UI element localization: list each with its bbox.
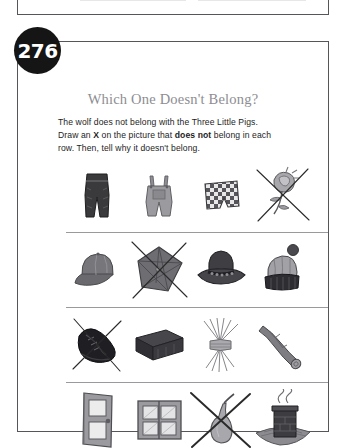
picture-cell-chimney[interactable] — [252, 389, 314, 448]
row-divider — [66, 307, 328, 308]
picture-cell-baseball-cap[interactable] — [66, 239, 128, 301]
brick-icon — [128, 314, 190, 376]
picture-cell-brick[interactable] — [128, 314, 190, 376]
picture-cell-cowboy-hat[interactable] — [190, 239, 252, 301]
picture-cell-wooden-log[interactable] — [252, 314, 314, 376]
straw-bundle-icon — [190, 314, 252, 376]
winter-beanie-icon — [252, 239, 314, 301]
wooden-log-icon — [252, 314, 314, 376]
page-title: Which One Doesn't Belong? — [18, 91, 328, 108]
picture-cell-straw-bundle[interactable] — [190, 314, 252, 376]
pants-icon — [66, 164, 128, 226]
page-number-badge: 276 — [14, 27, 61, 74]
instructions-text: The wolf does not belong with the Three … — [58, 116, 306, 156]
umbrella-icon — [128, 239, 190, 301]
instructions-line-2-middle: on the picture that — [99, 130, 175, 140]
cowboy-hat-icon — [190, 239, 252, 301]
picture-cell-door[interactable] — [66, 389, 128, 448]
picture-cell-pants[interactable] — [66, 164, 128, 226]
picture-cell-overalls[interactable] — [128, 164, 190, 226]
window-icon — [128, 389, 190, 448]
instructions-does-not: does not — [175, 130, 212, 140]
instructions-line-3: row. Then, tell why it doesn't belong. — [58, 143, 200, 153]
picture-cell-shoe[interactable] — [66, 314, 128, 376]
row-divider — [66, 232, 328, 233]
door-icon — [66, 389, 128, 448]
picture-row — [18, 312, 328, 387]
rose-icon — [252, 164, 314, 226]
chimney-icon — [252, 389, 314, 448]
instructions-line-2-suffix: belong in each — [211, 130, 271, 140]
picture-cell-rose[interactable] — [252, 164, 314, 226]
overalls-icon — [128, 164, 190, 226]
previous-page-placeholder-line — [198, 0, 306, 1]
picture-cell-winter-beanie[interactable] — [252, 239, 314, 301]
picture-cell-checkered-shorts[interactable] — [190, 164, 252, 226]
row-divider — [66, 382, 328, 383]
checkered-shorts-icon — [190, 164, 252, 226]
previous-page-placeholder-line — [80, 0, 186, 1]
baseball-cap-icon — [66, 239, 128, 301]
instructions-line-1: The wolf does not belong with the Three … — [58, 117, 258, 127]
picture-cell-window[interactable] — [128, 389, 190, 448]
picture-cell-umbrella[interactable] — [128, 239, 190, 301]
pear-icon — [190, 389, 252, 448]
picture-row — [18, 237, 328, 312]
picture-row — [18, 162, 328, 237]
worksheet-frame: Which One Doesn't Belong? The wolf does … — [17, 41, 329, 432]
previous-page-box — [17, 0, 329, 15]
picture-row — [18, 387, 328, 448]
instructions-line-2-prefix: Draw an — [58, 130, 93, 140]
picture-rows — [18, 162, 328, 448]
shoe-icon — [66, 314, 128, 376]
picture-cell-pear[interactable] — [190, 389, 252, 448]
